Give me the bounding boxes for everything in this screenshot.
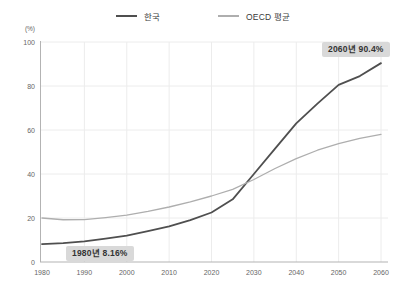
x-tick-label: 2040	[288, 269, 304, 276]
x-tick-label: 2030	[246, 269, 262, 276]
legend-item-oecd: OECD 평균	[218, 10, 290, 22]
x-tick-label: 2050	[331, 269, 347, 276]
oecd-line-swatch	[218, 15, 239, 17]
x-tick-label: 2060	[373, 269, 389, 276]
x-tick-label: 2000	[119, 269, 135, 276]
korea-line-swatch	[116, 15, 137, 17]
annotation-2060: 2060년 90.4%	[322, 42, 390, 57]
y-tick-label: 60	[27, 127, 35, 134]
y-tick-label: 100	[23, 39, 35, 46]
x-tick-label: 1990	[77, 269, 93, 276]
x-tick-label: 2020	[204, 269, 220, 276]
legend-label-oecd: OECD 평균	[246, 10, 290, 22]
line-chart: 0204060801001980199020002010202020302040…	[0, 0, 406, 302]
legend-label-korea: 한국	[144, 10, 160, 22]
legend-item-korea: 한국	[116, 10, 160, 22]
chart-legend: 한국 OECD 평균	[0, 10, 406, 22]
y-tick-label: 40	[27, 171, 35, 178]
y-tick-label: 20	[27, 215, 35, 222]
x-tick-label: 2010	[161, 269, 177, 276]
x-tick-label: 1980	[34, 269, 50, 276]
annotation-1980: 1980년 8.16%	[66, 246, 134, 261]
y-tick-label: 80	[27, 83, 35, 90]
y-tick-label: 0	[31, 259, 35, 266]
y-axis-unit-label: (%)	[25, 25, 35, 33]
